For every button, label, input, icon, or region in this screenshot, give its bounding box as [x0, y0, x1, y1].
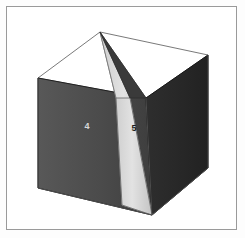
label-4: 4: [84, 121, 89, 131]
label-5: 5: [131, 123, 136, 133]
figure-root: 4 5: [0, 0, 245, 238]
cube-diagram: 4 5: [0, 0, 245, 238]
